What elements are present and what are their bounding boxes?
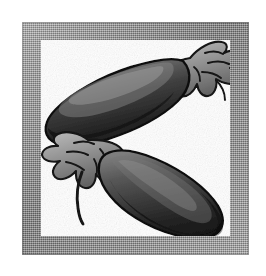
artwork-root: Black and white halftone illustration of…: [0, 0, 266, 276]
eggplant-upper: [46, 42, 245, 146]
eggplant-lower: [42, 132, 223, 238]
eggplant-lower-body: [99, 151, 223, 238]
eggplant-illustration: [22, 22, 249, 255]
